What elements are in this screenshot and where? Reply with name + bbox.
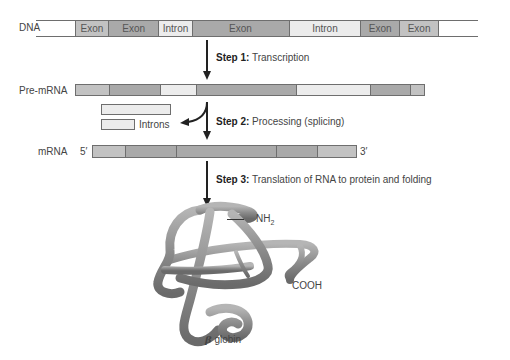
step1-prefix: Step 1:	[216, 52, 249, 63]
dna-intron-1: Intron	[159, 21, 192, 36]
nh2-text: NH	[256, 213, 270, 224]
step3-label: Step 3: Translation of RNA to protein an…	[216, 174, 432, 185]
pre-mrna-bar	[75, 84, 425, 96]
exon-label: Exon	[369, 23, 392, 34]
dna-intron-2: Intron	[290, 21, 362, 36]
introns-label: Introns	[139, 119, 170, 130]
nh2-leader-line	[227, 219, 244, 220]
excised-intron-short	[101, 119, 135, 130]
step3-prefix: Step 3:	[216, 174, 249, 185]
intron-label: Intron	[163, 23, 189, 34]
mrna-exon-5	[318, 146, 356, 157]
dna-bar: Exon Exon Intron Exon Intron Exon Exon	[75, 20, 439, 37]
globin-text: globin	[212, 334, 241, 345]
pre-mrna-intron-2	[297, 85, 371, 95]
step3-text: Translation of RNA to protein and foldin…	[249, 174, 431, 185]
dna-exon-2: Exon	[109, 21, 159, 36]
mrna-exon-3	[177, 146, 277, 157]
step2-arrow-head	[203, 131, 211, 140]
pre-mrna-label: Pre-mRNA	[19, 85, 67, 96]
mrna-exon-2	[126, 146, 177, 157]
pre-mrna-exon-1	[76, 85, 110, 95]
dna-exon-4: Exon	[361, 21, 400, 36]
step1-arrow-head	[203, 71, 211, 80]
intron-label: Intron	[312, 23, 338, 34]
five-prime-label: 5′	[80, 146, 87, 157]
step2-label: Step 2: Processing (splicing)	[216, 116, 344, 127]
dna-exon-5: Exon	[400, 21, 439, 36]
beta-globin-protein-illustration	[140, 200, 370, 360]
splice-branch-arrow	[176, 100, 210, 130]
dna-exon-1: Exon	[76, 21, 109, 36]
pre-mrna-intron-1	[161, 85, 197, 95]
mrna-label: mRNA	[38, 146, 67, 157]
beta-globin-label: β globin	[205, 334, 241, 345]
mrna-exon-4	[277, 146, 318, 157]
mrna-bar	[92, 145, 357, 158]
pre-mrna-exon-4	[371, 85, 411, 95]
dna-exon-3: Exon	[193, 21, 290, 36]
excised-intron-long	[101, 104, 171, 115]
nh2-subscript: 2	[270, 219, 274, 226]
exon-label: Exon	[229, 23, 252, 34]
exon-label: Exon	[122, 23, 145, 34]
step2-prefix: Step 2:	[216, 116, 249, 127]
cooh-label: COOH	[292, 280, 322, 291]
step3-arrow-line	[206, 161, 208, 199]
pre-mrna-exon-2	[110, 85, 161, 95]
mrna-exon-1	[93, 146, 126, 157]
three-prime-label: 3′	[360, 146, 367, 157]
step2-text: Processing (splicing)	[249, 116, 344, 127]
exon-label: Exon	[81, 23, 104, 34]
nh2-label: NH2	[256, 213, 274, 226]
step1-text: Transcription	[249, 52, 309, 63]
pre-mrna-exon-3	[197, 85, 297, 95]
beta-symbol: β	[205, 334, 212, 345]
exon-label: Exon	[408, 23, 431, 34]
pre-mrna-exon-5	[411, 85, 424, 95]
step1-label: Step 1: Transcription	[216, 52, 309, 63]
dna-strand-right	[439, 20, 478, 37]
step1-arrow-line	[206, 40, 208, 72]
